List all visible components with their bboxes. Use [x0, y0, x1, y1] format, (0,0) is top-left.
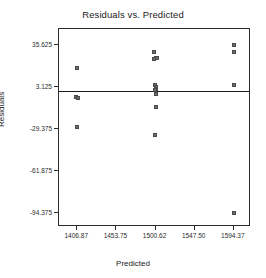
- scatter-point: [232, 83, 236, 87]
- x-tick-label: 1594.37: [221, 232, 245, 239]
- x-tick-mark: [76, 226, 77, 230]
- x-tick-label: 1547.50: [182, 232, 206, 239]
- x-tick-mark: [155, 226, 156, 230]
- scatter-point: [152, 50, 156, 54]
- x-tick-mark: [194, 226, 195, 230]
- scatter-point: [75, 66, 79, 70]
- scatter-point: [232, 43, 236, 47]
- y-tick-label: -61.875: [14, 167, 52, 174]
- scatter-point: [154, 92, 158, 96]
- y-tick-label: -29.375: [14, 125, 52, 132]
- scatter-points-layer: [59, 29, 249, 225]
- scatter-point: [75, 125, 79, 129]
- x-tick-label: 1406.87: [65, 232, 89, 239]
- scatter-point: [153, 133, 157, 137]
- scatter-point: [154, 105, 158, 109]
- scatter-point: [152, 57, 156, 61]
- y-tick-label: 35.625: [14, 41, 52, 48]
- residuals-vs-predicted-chart: Residuals vs. Predicted Residuals Predic…: [0, 0, 266, 278]
- scatter-point: [153, 88, 157, 92]
- y-axis-title: Residuals: [0, 92, 6, 127]
- x-tick-mark: [115, 226, 116, 230]
- x-tick-label: 1500.62: [143, 232, 167, 239]
- scatter-point: [232, 211, 236, 215]
- scatter-point: [232, 50, 236, 54]
- x-tick-label: 1453.75: [104, 232, 128, 239]
- x-tick-mark: [233, 226, 234, 230]
- y-tick-label: -94.375: [14, 209, 52, 216]
- chart-title: Residuals vs. Predicted: [0, 9, 266, 20]
- scatter-point: [76, 96, 80, 100]
- y-tick-label: 3.125: [14, 83, 52, 90]
- plot-area: [58, 28, 250, 226]
- x-axis-title: Predicted: [0, 259, 266, 268]
